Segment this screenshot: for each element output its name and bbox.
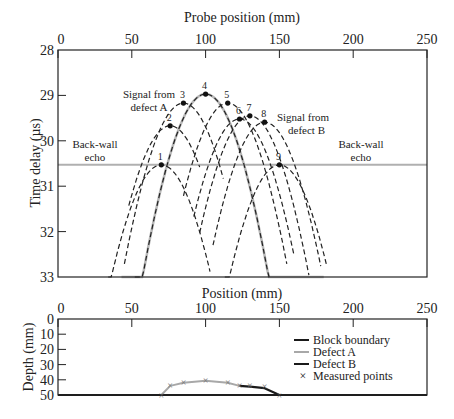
x-tick-label: 100 <box>195 32 216 47</box>
measured-point-marker <box>168 123 173 128</box>
defect-a-label-line1: Signal from <box>123 88 176 100</box>
top-x-ticks: 050100150200250 <box>58 32 438 58</box>
x-tick-label: 250 <box>417 32 438 47</box>
x-tick-label: 0 <box>58 301 65 316</box>
bottom-y-axis-title: Depth (mm) <box>21 322 37 391</box>
top-plot-area: 123456789 <box>58 80 427 277</box>
point-number-label: 4 <box>202 80 207 91</box>
measured-point-marker <box>225 101 230 106</box>
x-tick-label: 200 <box>343 301 364 316</box>
y-tick-label: 50 <box>40 388 54 403</box>
y-tick-label: 30 <box>40 358 54 373</box>
bottom-y-ticks: 01020304050 <box>40 312 66 403</box>
bottom-plot-frame <box>58 319 427 395</box>
hyperbola-dashed-curve <box>108 165 210 277</box>
x-tick-label: 250 <box>417 301 438 316</box>
measured-point-marker <box>247 113 252 118</box>
point-number-label: 7 <box>246 102 251 113</box>
backwall-left-label-line2: echo <box>85 151 106 163</box>
point-number-label: 5 <box>224 89 229 100</box>
y-tick-label: 29 <box>40 88 54 103</box>
defect-b-label-line2: defect B <box>288 124 325 136</box>
measured-point-x-marker: × <box>203 375 209 386</box>
y-tick-label: 0 <box>47 312 54 327</box>
defect-b-line <box>240 386 280 395</box>
point-number-label: 1 <box>158 151 163 162</box>
x-tick-label: 0 <box>58 32 65 47</box>
chart-figure: Probe position (mm) Time delay (µs) 0501… <box>0 0 454 419</box>
point-number-label: 8 <box>261 108 266 119</box>
legend: Block boundary Defect A Defect B × Measu… <box>294 333 393 383</box>
measured-point-marker <box>237 116 242 121</box>
backwall-right-label-line2: echo <box>351 151 372 163</box>
top-x-axis-title: Probe position (mm) <box>184 10 300 26</box>
y-tick-label: 33 <box>40 270 54 285</box>
measured-point-x-marker: × <box>237 380 243 391</box>
y-tick-label: 20 <box>40 342 54 357</box>
x-tick-label: 50 <box>125 301 139 316</box>
measured-point-marker <box>262 120 267 125</box>
hyperbola-dashed-curve <box>124 103 223 264</box>
measured-point-x-marker: × <box>167 380 173 391</box>
measured-point-marker <box>181 101 186 106</box>
x-tick-label: 150 <box>269 32 290 47</box>
legend-points-marker-icon: × <box>300 369 307 383</box>
legend-points-label: Measured points <box>313 369 393 383</box>
measured-point-x-marker: × <box>262 381 268 392</box>
point-number-label: 2 <box>167 112 172 123</box>
defect-a-label-line2: defect A <box>131 101 168 113</box>
measured-point-marker <box>277 162 282 167</box>
y-tick-label: 28 <box>40 43 54 58</box>
hyperbola-dashed-curve <box>184 103 287 264</box>
x-tick-label: 100 <box>195 301 216 316</box>
x-tick-label: 50 <box>125 32 139 47</box>
y-tick-label: 10 <box>40 327 54 342</box>
measured-point-x-marker: × <box>247 380 253 391</box>
y-tick-label: 31 <box>40 179 54 194</box>
depth-chart: Position (mm) Depth (mm) 050100150200250… <box>21 286 438 403</box>
measured-point-x-marker: × <box>225 377 231 388</box>
y-tick-label: 40 <box>40 373 54 388</box>
point-number-label: 6 <box>236 105 241 116</box>
y-tick-label: 32 <box>40 225 54 240</box>
point-number-label: 3 <box>180 89 185 100</box>
measured-point-marker <box>159 162 164 167</box>
backwall-right-label-line1: Back-wall <box>338 138 383 150</box>
measured-point-x-marker: × <box>181 377 187 388</box>
hyperbola-dashed-curve <box>194 119 294 256</box>
bottom-x-axis-title: Position (mm) <box>202 286 283 302</box>
x-tick-label: 150 <box>269 301 290 316</box>
bottom-x-ticks: 050100150200250 <box>58 301 438 327</box>
y-tick-label: 30 <box>40 134 54 149</box>
defect-b-label-line1: Signal from <box>277 111 330 123</box>
backwall-left-label-line1: Back-wall <box>72 138 117 150</box>
measured-point-marker <box>203 91 208 96</box>
time-delay-chart: Probe position (mm) Time delay (µs) 0501… <box>28 10 438 285</box>
x-tick-label: 200 <box>343 32 364 47</box>
point-number-label: 9 <box>276 151 281 162</box>
